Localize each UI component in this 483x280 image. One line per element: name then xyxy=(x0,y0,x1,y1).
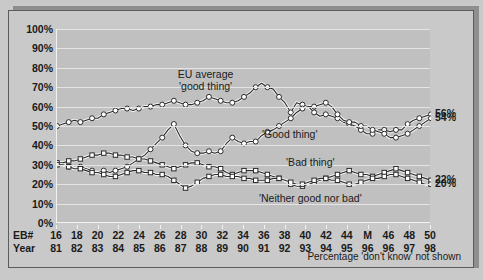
series-marker xyxy=(242,176,246,180)
x-tick-label: 32 xyxy=(216,229,228,241)
x-tick-mark xyxy=(243,225,244,229)
series-marker xyxy=(125,170,129,174)
gridline xyxy=(57,107,430,108)
y-tick-label: 20% xyxy=(13,179,53,190)
series-marker xyxy=(323,100,328,105)
x-tick-label: 38 xyxy=(279,229,291,241)
series-marker xyxy=(265,172,269,176)
series-end-label: 20% xyxy=(435,178,456,189)
x-tick-label: 34 xyxy=(237,229,249,241)
series-marker xyxy=(78,157,82,161)
y-axis: 100%90%80%70%60%50%40%30%20%10%0% xyxy=(9,29,53,229)
series-marker xyxy=(66,159,70,163)
series-marker xyxy=(324,176,328,180)
series-marker xyxy=(230,135,235,140)
x-tick-mark xyxy=(368,225,369,229)
x-tick-mark xyxy=(264,225,265,229)
x-axis-row-label: EB# xyxy=(13,229,33,241)
series-marker xyxy=(90,170,94,174)
annotation-line: 'Good thing' xyxy=(262,128,317,140)
chart-annotation: 'Good thing' xyxy=(262,128,317,140)
x-tick-label: 42 xyxy=(320,229,332,241)
x-tick-label: 48 xyxy=(403,229,415,241)
x-tick-label: 92 xyxy=(279,242,291,254)
gridline xyxy=(57,184,430,185)
x-tick-label: 28 xyxy=(175,229,187,241)
chart-annotation: 'Bad thing' xyxy=(286,156,334,168)
gridline xyxy=(57,29,430,30)
x-tick-label: 88 xyxy=(196,242,208,254)
series-line xyxy=(57,103,431,173)
series-marker xyxy=(312,110,317,115)
series-marker xyxy=(382,131,387,136)
series-marker xyxy=(90,116,95,121)
series-marker xyxy=(405,176,409,180)
x-tick-mark xyxy=(409,225,410,229)
x-tick-label: 82 xyxy=(71,242,83,254)
x-tick-mark xyxy=(201,225,202,229)
series-marker xyxy=(78,166,82,170)
x-tick-label: 81 xyxy=(50,242,62,254)
gridline xyxy=(57,68,430,69)
y-tick-label: 30% xyxy=(13,160,53,171)
x-tick-mark xyxy=(181,225,182,229)
series-marker xyxy=(277,176,281,180)
series-marker xyxy=(206,149,211,154)
x-tick-label: 16 xyxy=(50,229,62,241)
chart-annotation: 'Neither good nor bad' xyxy=(259,192,362,204)
series-marker xyxy=(101,112,106,117)
series-marker xyxy=(230,100,235,105)
gridline xyxy=(57,126,430,127)
annotation-line: 'good thing' xyxy=(178,80,233,92)
plot-area xyxy=(56,29,430,223)
y-tick-label: 90% xyxy=(13,43,53,54)
series-marker xyxy=(66,120,71,125)
plot-wrapper: 100%90%80%70%60%50%40%30%20%10%0% EB#161… xyxy=(9,11,475,269)
y-tick-label: 10% xyxy=(13,199,53,210)
series-marker xyxy=(253,139,258,144)
gridline xyxy=(57,204,430,205)
x-tick-label: 86 xyxy=(154,242,166,254)
series-marker xyxy=(335,172,339,176)
series-marker xyxy=(218,149,223,154)
series-marker xyxy=(405,170,409,174)
series-marker xyxy=(370,127,375,132)
series-marker xyxy=(253,168,257,172)
x-tick-label: 24 xyxy=(133,229,145,241)
x-tick-label: 91 xyxy=(258,242,270,254)
series-marker xyxy=(393,135,398,140)
series-marker xyxy=(148,159,152,163)
x-tick-label: 84 xyxy=(112,242,124,254)
series-marker xyxy=(335,178,339,182)
gridline xyxy=(57,48,430,49)
series-marker xyxy=(288,110,293,115)
x-tick-mark xyxy=(139,225,140,229)
series-marker xyxy=(242,168,246,172)
x-tick-label: 46 xyxy=(383,229,395,241)
gridline xyxy=(57,165,430,166)
y-tick-label: 60% xyxy=(13,102,53,113)
x-tick-mark xyxy=(326,225,327,229)
series-marker xyxy=(148,147,153,152)
annotation-line: 'Neither good nor bad' xyxy=(259,192,362,204)
x-tick-mark xyxy=(430,225,431,229)
x-tick-mark xyxy=(285,225,286,229)
series-marker xyxy=(253,178,257,182)
series-marker xyxy=(90,153,94,157)
series-marker xyxy=(312,178,316,182)
series-marker xyxy=(207,174,211,178)
chart-footnote: Percentage 'don't know' not shown xyxy=(307,251,461,262)
series-marker xyxy=(218,172,222,176)
series-end-label: 54% xyxy=(435,112,456,123)
x-tick-label: 18 xyxy=(71,229,83,241)
x-tick-label: 22 xyxy=(112,229,124,241)
x-tick-label: 44 xyxy=(341,229,353,241)
series-marker xyxy=(359,172,363,176)
series-marker xyxy=(125,155,129,159)
x-tick-label: M xyxy=(363,229,372,241)
x-tick-mark xyxy=(222,225,223,229)
series-marker xyxy=(417,174,421,178)
series-marker xyxy=(137,157,141,161)
annotation-line: 'Bad thing' xyxy=(286,156,334,168)
series-marker xyxy=(160,172,164,176)
